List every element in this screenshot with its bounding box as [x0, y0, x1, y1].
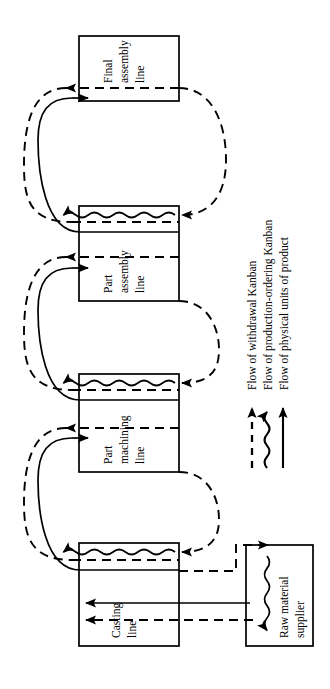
node-label-line: Raw material [278, 576, 290, 638]
node-label-line: Final [102, 59, 114, 83]
node-label-line: supplier [294, 601, 307, 638]
node-label-line: line [134, 276, 146, 293]
node-label-line: line [134, 66, 146, 83]
withdrawal-kanban-flows [24, 88, 268, 620]
node-label-line: Part [102, 274, 114, 293]
node-label-line: Casting [110, 603, 123, 638]
node-label-line: assembly [118, 250, 131, 293]
legend-labels: Flow of withdrawal Kanban Flow of produc… [246, 220, 291, 390]
legend-label-withdrawal-kanban: Flow of withdrawal Kanban [246, 260, 258, 390]
node-label-line: line [134, 447, 146, 464]
dashed-loop-right-part-assembly-to-machining [179, 301, 219, 383]
legend-label-production-ordering-kanban: Flow of production-ordering Kanban [262, 220, 275, 390]
dashed-loop-right-machining-to-casting [179, 472, 219, 552]
diagram-canvas: Final assembly line Part assembly line P… [0, 0, 330, 689]
dashed-loop-left-final-to-part-assembly [24, 88, 72, 222]
node-label-line: machining [118, 415, 131, 464]
node-label-line: assembly [118, 40, 131, 83]
node-label-line: line [126, 621, 138, 638]
kanban-flow-diagram: Final assembly line Part assembly line P… [0, 0, 330, 689]
legend-wavy-arrow [265, 412, 270, 468]
node-label-line: Part [102, 445, 114, 464]
dashed-loop-right-final-to-part-assembly [179, 88, 226, 215]
dashed-loop-left-machining-to-casting [24, 428, 72, 560]
legend [252, 408, 283, 468]
legend-label-physical-units: Flow of physical units of product [278, 236, 291, 390]
